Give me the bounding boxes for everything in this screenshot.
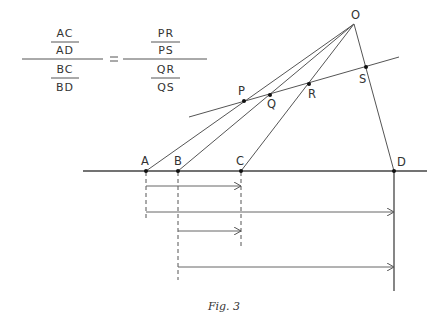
line-o-d — [354, 24, 394, 171]
formula-ad: AD — [56, 44, 74, 57]
dot-c — [239, 169, 243, 173]
line-o-b — [178, 24, 354, 171]
cross-ratio-formula: AC AD BC BD PR PS QR QS — [22, 27, 207, 94]
dot-a — [144, 169, 148, 173]
label-o: O — [351, 8, 360, 22]
line-o-a — [146, 24, 354, 171]
dot-b — [176, 169, 180, 173]
dot-r — [307, 82, 311, 86]
formula-qs: QS — [157, 81, 175, 94]
formula-qr: QR — [157, 63, 175, 76]
equals-sign — [110, 57, 118, 61]
formula-ps: PS — [158, 44, 174, 57]
label-p: P — [238, 84, 245, 98]
dot-s — [364, 65, 368, 69]
dot-d — [392, 169, 396, 173]
label-c: C — [236, 154, 244, 168]
dot-p — [242, 99, 246, 103]
cross-ratio-figure: AC AD BC BD PR PS QR QS — [0, 0, 448, 325]
label-r: R — [308, 87, 316, 101]
dashed-projections — [146, 172, 241, 280]
formula-pr: PR — [158, 27, 174, 40]
figure-caption: Fig. 3 — [207, 300, 240, 313]
formula-ac: AC — [56, 27, 73, 40]
label-b: B — [174, 154, 182, 168]
formula-bd: BD — [56, 81, 74, 94]
formula-bc: BC — [56, 63, 73, 76]
label-a: A — [141, 154, 149, 168]
label-d: D — [397, 155, 406, 169]
label-s: S — [359, 72, 366, 86]
label-q: Q — [267, 97, 276, 111]
distance-arrows — [146, 186, 394, 267]
